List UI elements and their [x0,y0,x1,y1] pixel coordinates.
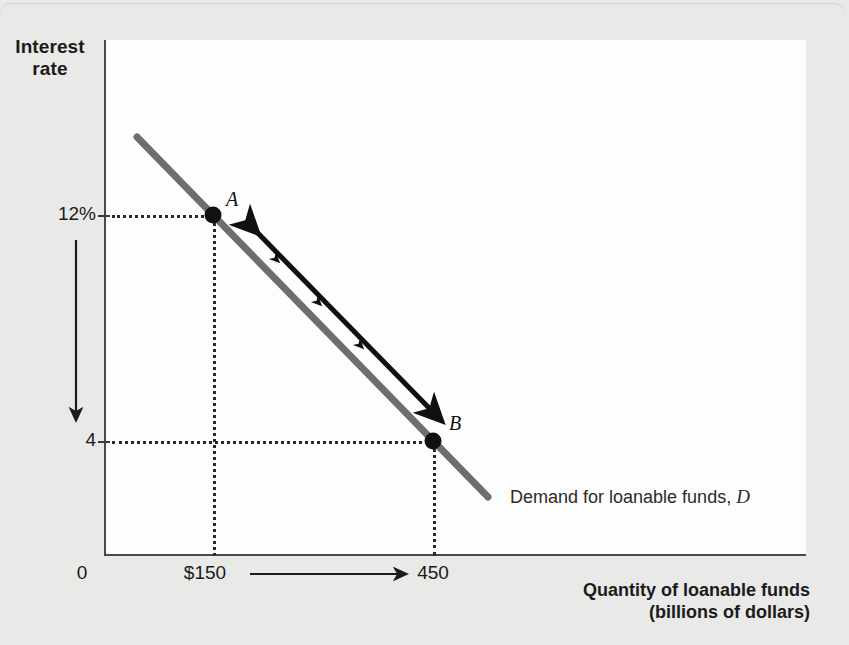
x-axis-title-line1: Quantity of loanable funds [583,580,810,600]
x-axis-title: Quantity of loanable funds (billions of … [500,580,810,623]
y-axis-title: Interest rate [4,36,96,80]
plot-area [106,40,806,556]
demand-curve-label-text: Demand for loanable funds, [510,487,731,507]
x-axis-title-line2: (billions of dollars) [500,602,810,624]
figure-container: Interest rate Quantity of loanable funds… [0,0,849,645]
guide-line-4-percent [112,441,435,444]
data-point-a-label: A [226,188,238,211]
y-tick-label-4: 4 [26,429,96,451]
y-axis-title-line1: Interest [15,36,84,57]
demand-curve-symbol: D [736,486,750,507]
y-tick-label-12-percent: 12% [26,203,96,225]
y-tick-mark-4 [98,441,110,443]
y-axis-title-line2: rate [32,58,67,79]
x-tick-label-450: 450 [398,562,468,584]
x-tick-label-150: $150 [160,562,250,584]
guide-line-450 [433,442,436,556]
data-point-b-label: B [449,412,461,435]
guide-line-12-percent [112,215,215,218]
demand-curve-label: Demand for loanable funds, D [510,486,750,508]
origin-label: 0 [62,562,102,584]
y-tick-mark-12 [98,215,110,217]
guide-line-150 [213,216,216,556]
y-axis-line [104,40,106,556]
x-axis-line [104,554,806,556]
